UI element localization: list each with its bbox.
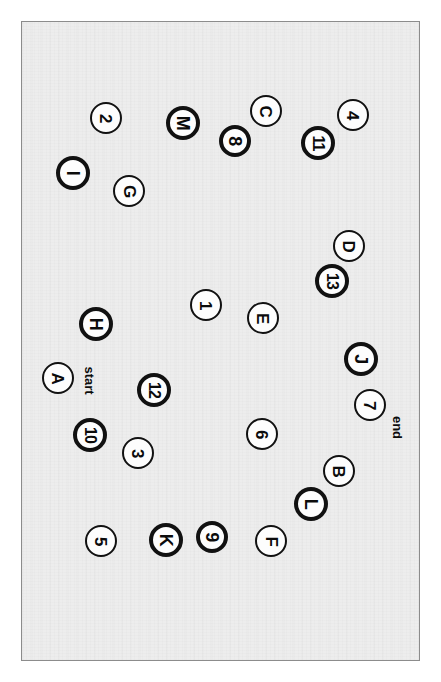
token-J[interactable]: J: [344, 342, 378, 376]
token-label: 1: [198, 300, 215, 309]
token-label: G: [121, 185, 138, 198]
end-label: end: [391, 408, 404, 448]
token-6[interactable]: 6: [246, 418, 278, 450]
token-label: 9: [203, 532, 221, 542]
token-2[interactable]: 2: [90, 102, 122, 134]
token-label: I: [64, 171, 82, 176]
token-H[interactable]: H: [79, 307, 113, 341]
token-label: C: [257, 105, 274, 117]
token-L[interactable]: L: [294, 487, 328, 521]
token-G[interactable]: G: [113, 175, 145, 207]
token-label: 6: [254, 429, 271, 438]
token-13[interactable]: 13: [315, 264, 349, 298]
puzzle-board: 2MC4811IGD131EHJA1276103BL5K9Fstartend: [21, 21, 420, 661]
token-label: K: [157, 534, 175, 547]
token-label: 13: [324, 273, 340, 289]
token-label: M: [174, 116, 192, 131]
token-1[interactable]: 1: [190, 289, 222, 321]
token-B[interactable]: B: [323, 455, 355, 487]
token-label: H: [87, 318, 105, 331]
token-label: A: [49, 372, 66, 384]
token-label: 10: [82, 427, 98, 443]
token-4[interactable]: 4: [337, 99, 369, 131]
token-10[interactable]: 10: [73, 418, 107, 452]
token-label: E: [254, 312, 271, 323]
token-label: L: [302, 499, 320, 510]
token-E[interactable]: E: [247, 302, 279, 334]
start-label: start: [83, 361, 96, 401]
token-label: 4: [345, 110, 362, 119]
token-label: 5: [93, 536, 110, 545]
token-11[interactable]: 11: [301, 126, 335, 160]
token-8[interactable]: 8: [219, 125, 251, 157]
token-F[interactable]: F: [255, 525, 287, 557]
token-label: 8: [226, 136, 244, 146]
token-label: F: [263, 536, 280, 546]
token-9[interactable]: 9: [196, 521, 228, 553]
screenshot-root: 2MC4811IGD131EHJA1276103BL5K9Fstartend: [0, 0, 441, 682]
token-12[interactable]: 12: [137, 373, 171, 407]
token-label: B: [330, 465, 347, 477]
token-C[interactable]: C: [250, 95, 282, 127]
token-label: 12: [146, 382, 162, 398]
token-label: 7: [362, 400, 379, 409]
token-3[interactable]: 3: [122, 437, 154, 469]
token-label: D: [340, 240, 357, 252]
token-label: 3: [130, 448, 147, 457]
token-7[interactable]: 7: [354, 389, 386, 421]
token-label: J: [352, 354, 370, 364]
token-K[interactable]: K: [149, 523, 183, 557]
token-I[interactable]: I: [56, 156, 90, 190]
token-D[interactable]: D: [333, 230, 365, 262]
token-label: 2: [98, 113, 115, 122]
token-M[interactable]: M: [166, 106, 200, 140]
token-5[interactable]: 5: [85, 525, 117, 557]
token-A[interactable]: A: [42, 362, 74, 394]
token-label: 11: [310, 136, 326, 151]
